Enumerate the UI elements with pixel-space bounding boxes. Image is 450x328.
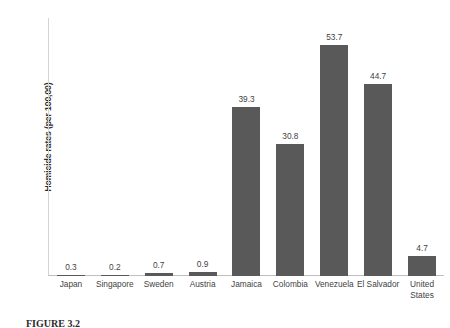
x-tick-label: United States [400,279,444,300]
bar-value-label: 30.8 [282,131,298,141]
bar-value-label: 0.9 [197,259,209,269]
figure-number: FIGURE 3.2 [26,318,80,328]
bar-value-label: 39.3 [238,94,254,104]
bar-value-label: 0.3 [65,262,77,272]
bar-slot: 0.7 [137,18,181,276]
x-tick-label: Sweden [137,279,181,290]
bar-slot: 0.2 [93,18,137,276]
bar-slot: 44.7 [356,18,400,276]
bar[interactable] [364,84,392,276]
x-tick-label: Colombia [268,279,312,290]
x-axis-labels: JapanSingaporeSwedenAustriaJamaicaColomb… [49,279,444,319]
bar-slot: 4.7 [400,18,444,276]
plot-area: 0.30.20.70.939.330.853.744.74.7 [48,18,444,276]
bar[interactable] [408,256,436,276]
bar[interactable] [232,107,260,276]
bar[interactable] [320,45,348,276]
x-tick-label: Austria [181,279,225,290]
x-tick-label: Jamaica [225,279,269,290]
bar[interactable] [57,275,85,276]
x-tick-label: Venezuela [312,279,356,290]
bar[interactable] [145,273,173,276]
bar-slot: 53.7 [312,18,356,276]
bar-slot: 0.3 [49,18,93,276]
bar-series: 0.30.20.70.939.330.853.744.74.7 [49,18,444,276]
bar[interactable] [101,275,129,276]
bar-slot: 30.8 [268,18,312,276]
bar-slot: 39.3 [225,18,269,276]
homicide-rates-bar-chart: Homicide rates (per 100,00) 0.30.20.70.9… [0,0,450,328]
figure-caption: FIGURE 3.2 [26,318,80,328]
bar-value-label: 44.7 [370,71,386,81]
x-tick-label: El Salvador [356,279,400,290]
bar-value-label: 53.7 [326,32,342,42]
x-tick-label: Japan [49,279,93,290]
x-tick-label: Singapore [93,279,137,290]
bar-value-label: 0.2 [109,262,121,272]
bar-slot: 0.9 [181,18,225,276]
bar[interactable] [276,144,304,276]
bar-value-label: 0.7 [153,260,165,270]
bar[interactable] [189,272,217,276]
bar-value-label: 4.7 [416,243,428,253]
